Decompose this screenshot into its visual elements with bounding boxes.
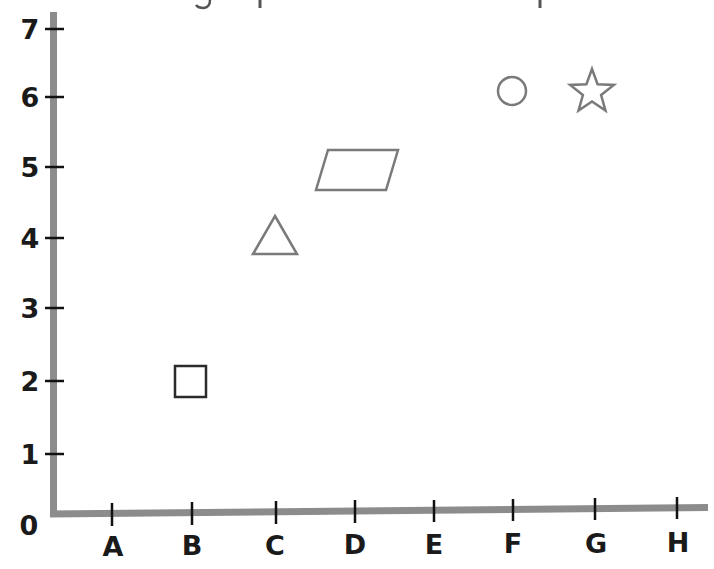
y-label-4: 4 <box>21 223 40 254</box>
origin-label: 0 <box>20 510 39 541</box>
triangle-icon <box>253 216 297 254</box>
x-label-f: F <box>504 528 522 559</box>
square-icon <box>175 366 206 397</box>
x-label-d: D <box>344 529 366 560</box>
y-label-2: 2 <box>21 366 40 397</box>
x-label-g: G <box>585 528 607 559</box>
circle-icon <box>498 77 526 105</box>
x-label-e: E <box>425 529 443 560</box>
y-labels: 7 6 5 4 3 2 1 0 <box>20 14 40 541</box>
parallelogram-icon <box>316 150 398 190</box>
x-label-b: B <box>182 530 203 561</box>
x-label-c: C <box>265 530 285 561</box>
star-icon <box>570 69 614 111</box>
y-label-3: 3 <box>21 293 40 324</box>
cropped-title-fragment <box>196 0 540 8</box>
y-label-5: 5 <box>21 152 40 183</box>
y-label-7: 7 <box>21 14 40 45</box>
coordinate-grid-chart: 7 6 5 4 3 2 1 0 A B C D E F G H <box>0 0 714 569</box>
x-axis <box>50 508 708 515</box>
x-label-h: H <box>667 527 690 558</box>
x-label-a: A <box>103 531 124 562</box>
plotted-shapes <box>175 69 614 397</box>
y-label-6: 6 <box>21 82 40 113</box>
x-labels: A B C D E F G H <box>103 527 690 562</box>
y-label-1: 1 <box>21 439 40 470</box>
